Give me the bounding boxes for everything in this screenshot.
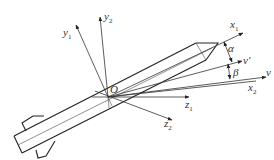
z2-axis	[95, 91, 172, 120]
v-axis	[108, 77, 266, 97]
angle-beta	[228, 64, 230, 79]
alpha-label: α	[228, 42, 234, 54]
v-prime-label: v'	[243, 54, 251, 66]
rocket-frames-diagram: O y1 y2 x1 v' v x2 z1 z2 α β	[0, 0, 274, 160]
y2-label: y2	[103, 10, 113, 25]
y2-axis	[100, 17, 108, 97]
y1-axis	[76, 25, 108, 97]
z1-label: z1	[184, 98, 193, 113]
beta-label: β	[232, 66, 239, 78]
x2-label: x2	[247, 81, 257, 96]
origin-label: O	[110, 83, 118, 95]
v-label: v	[266, 66, 271, 78]
y1-label: y1	[62, 26, 72, 41]
x1-axis	[108, 33, 243, 97]
x1-label: x1	[229, 18, 239, 33]
